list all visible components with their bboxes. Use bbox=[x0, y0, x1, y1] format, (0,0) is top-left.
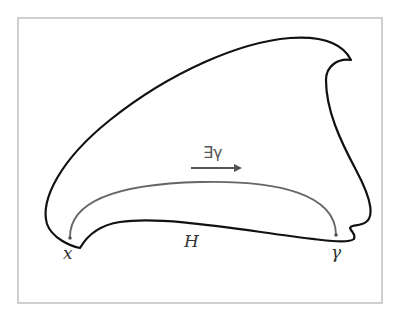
start-point-marker bbox=[68, 236, 72, 240]
end-point-label: γ bbox=[331, 244, 341, 261]
start-point-label: x bbox=[63, 245, 73, 262]
region-diagram bbox=[0, 0, 401, 319]
region-label: H bbox=[184, 233, 199, 250]
arrow-right-icon bbox=[191, 164, 242, 172]
path-gamma bbox=[70, 182, 336, 237]
end-point-marker bbox=[334, 233, 338, 237]
path-existence-label: ∃γ bbox=[203, 145, 223, 161]
